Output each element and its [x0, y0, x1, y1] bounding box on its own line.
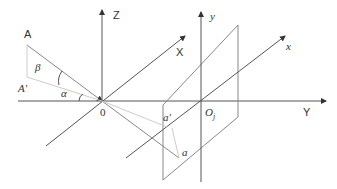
label-Oj-sub: j	[213, 112, 215, 121]
label-a: a	[182, 147, 188, 158]
label-Y: Y	[303, 107, 310, 118]
label-x: x	[286, 41, 291, 52]
label-alpha: α	[61, 88, 67, 99]
arc-beta	[58, 71, 62, 85]
label-a-prime: a'	[163, 112, 171, 123]
ray-O-a	[102, 101, 179, 158]
label-X: X	[176, 47, 183, 58]
label-origin: 0	[100, 107, 106, 118]
ray-O-aprime	[102, 101, 167, 127]
diagram-canvas	[0, 0, 337, 189]
label-A-prime: A'	[18, 83, 27, 94]
label-Oj-main: O	[205, 106, 213, 118]
label-A: A	[24, 29, 31, 40]
axis-x	[126, 36, 285, 158]
label-y: y	[210, 11, 215, 22]
label-Z: Z	[113, 10, 120, 21]
label-beta: β	[35, 62, 40, 73]
label-Oj: Oj	[205, 107, 215, 121]
